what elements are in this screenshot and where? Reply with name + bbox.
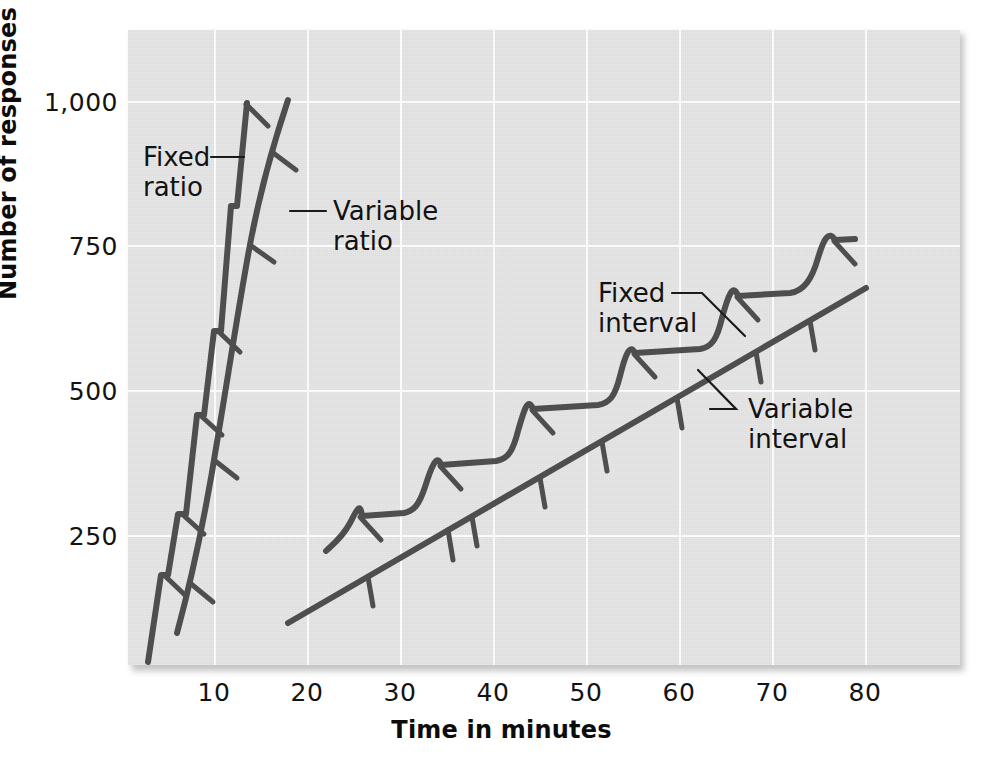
ytick-label-500: 500: [8, 377, 118, 406]
gridline-x-50: [586, 30, 588, 665]
gridline-x-20: [307, 30, 309, 665]
xtick-label-60: 60: [649, 678, 709, 707]
xtick-label-20: 20: [277, 678, 337, 707]
plot-area: [128, 30, 960, 665]
ytick-label-750: 750: [8, 232, 118, 261]
gridline-y-500: [128, 390, 960, 392]
xtick-label-50: 50: [556, 678, 616, 707]
annotation-variable-ratio: Variable ratio: [333, 196, 438, 256]
xtick-label-80: 80: [835, 678, 895, 707]
gridline-x-30: [400, 30, 402, 665]
gridline-y-250: [128, 535, 960, 537]
gridline-x-70: [772, 30, 774, 665]
gridline-x-40: [493, 30, 495, 665]
xtick-label-30: 30: [370, 678, 430, 707]
x-axis-title: Time in minutes: [0, 716, 1003, 744]
annotation-variable-interval: Variable interval: [748, 394, 853, 454]
xtick-label-10: 10: [184, 678, 244, 707]
annotation-fixed-ratio: Fixed ratio: [143, 142, 210, 202]
reinforcement-schedules-figure: 1,000 750 500 250 10 20 30 40 50 60 70 8…: [0, 0, 1003, 775]
ytick-label-1000: 1,000: [8, 88, 118, 117]
gridline-y-1000: [128, 101, 960, 103]
annotation-fixed-interval: Fixed interval: [598, 278, 697, 338]
xtick-label-40: 40: [463, 678, 523, 707]
y-axis-title: Number of responses: [0, 7, 22, 300]
xtick-label-70: 70: [742, 678, 802, 707]
gridline-x-60: [679, 30, 681, 665]
ytick-label-250: 250: [8, 522, 118, 551]
gridline-x-10: [214, 30, 216, 665]
gridline-x-80: [865, 30, 867, 665]
gridline-y-750: [128, 245, 960, 247]
